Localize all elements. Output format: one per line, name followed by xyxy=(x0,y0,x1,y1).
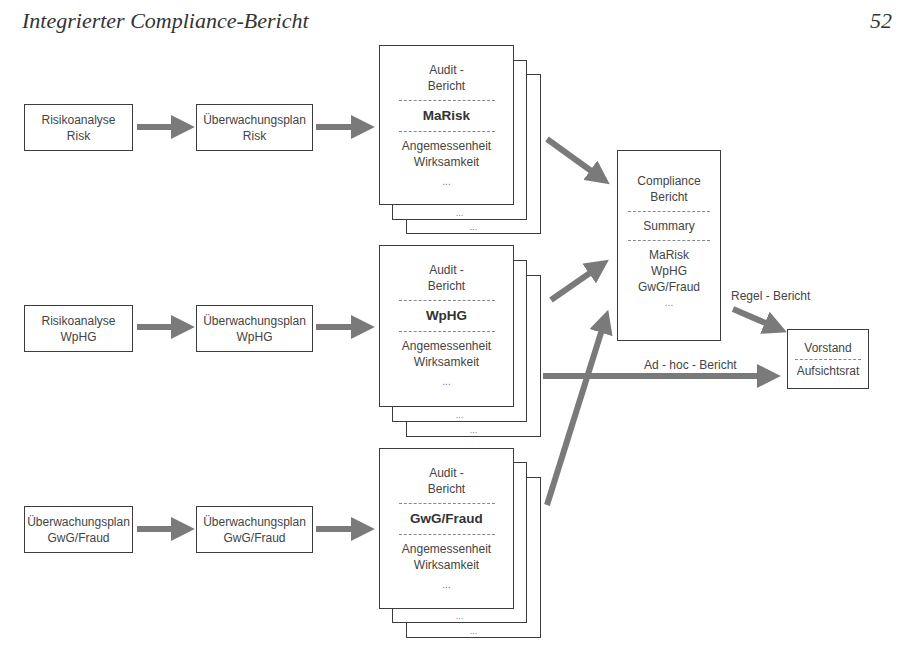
divider xyxy=(399,300,495,301)
audit-criterion: Angemessenheit xyxy=(402,138,491,154)
box-label: Risk xyxy=(67,128,90,144)
monitoring-plan-box-gwg-input: Überwachungsplan GwG/Fraud xyxy=(24,506,133,553)
board-box: Vorstand Aufsichtsrat xyxy=(787,329,869,389)
audit-ellipsis: ... xyxy=(442,577,450,593)
audit-criterion: Angemessenheit xyxy=(402,338,491,354)
box-label: GwG/Fraud xyxy=(223,530,285,546)
audit-report-wphg: Audit - Bericht WpHG Angemessenheit Wirk… xyxy=(379,245,514,407)
audit-criterion: Angemessenheit xyxy=(402,541,491,557)
divider xyxy=(399,100,495,101)
audit-topic: GwG/Fraud xyxy=(410,510,483,528)
box-label: WpHG xyxy=(237,329,273,345)
divider xyxy=(399,131,495,132)
regular-report-label: Regel - Bericht xyxy=(731,289,810,303)
audit-ellipsis: ... xyxy=(442,174,450,190)
compliance-label: Compliance xyxy=(637,173,700,189)
audit-label: Audit - xyxy=(429,62,464,78)
sheet-dots: ... xyxy=(393,410,526,420)
box-label: WpHG xyxy=(61,329,97,345)
box-label: Risk xyxy=(243,128,266,144)
risk-analysis-box-wphg: Risikoanalyse WpHG xyxy=(24,305,133,352)
arrow-audit3-to-compliance xyxy=(547,320,605,505)
compliance-label: Bericht xyxy=(650,189,687,205)
audit-label: Bericht xyxy=(428,78,465,94)
audit-report-marisk: Audit - Bericht MaRisk Angemessenheit Wi… xyxy=(379,45,514,205)
sheet-dots: ... xyxy=(393,208,526,218)
sheet-dots: ... xyxy=(407,222,540,232)
monitoring-plan-box-wphg: Überwachungsplan WpHG xyxy=(196,305,313,352)
recipient-label: Aufsichtsrat xyxy=(797,363,860,379)
sheet-dots: ... xyxy=(407,425,540,435)
audit-ellipsis: ... xyxy=(442,374,450,390)
divider xyxy=(399,503,495,504)
audit-label: Audit - xyxy=(429,465,464,481)
divider xyxy=(795,359,861,360)
box-label: Überwachungsplan xyxy=(27,514,130,530)
audit-topic: WpHG xyxy=(426,307,467,325)
box-label: Risikoanalyse xyxy=(41,313,115,329)
divider xyxy=(628,211,710,212)
divider xyxy=(399,331,495,332)
risk-analysis-box-risk: Risikoanalyse Risk xyxy=(24,104,133,151)
audit-label: Audit - xyxy=(429,262,464,278)
compliance-item: ... xyxy=(665,295,673,311)
compliance-summary: Summary xyxy=(643,218,694,234)
audit-criterion: Wirksamkeit xyxy=(414,557,479,573)
box-label: GwG/Fraud xyxy=(47,530,109,546)
audit-topic: MaRisk xyxy=(423,107,470,125)
divider xyxy=(628,240,710,241)
box-label: Überwachungsplan xyxy=(203,313,306,329)
divider xyxy=(399,534,495,535)
sheet-dots: ... xyxy=(407,626,540,636)
sheet-dots: ... xyxy=(393,611,526,621)
box-label: Risikoanalyse xyxy=(41,112,115,128)
audit-report-gwg-fraud: Audit - Bericht GwG/Fraud Angemessenheit… xyxy=(379,448,514,609)
audit-label: Bericht xyxy=(428,481,465,497)
compliance-item: WpHG xyxy=(651,263,687,279)
arrow-regular xyxy=(733,309,777,328)
compliance-report-box: Compliance Bericht Summary MaRisk WpHG G… xyxy=(617,150,721,341)
box-label: Überwachungsplan xyxy=(203,112,306,128)
arrow-audit2-to-compliance xyxy=(551,266,600,300)
adhoc-report-label: Ad - hoc - Bericht xyxy=(644,358,737,372)
audit-criterion: Wirksamkeit xyxy=(414,354,479,370)
compliance-item: GwG/Fraud xyxy=(638,279,700,295)
audit-criterion: Wirksamkeit xyxy=(414,154,479,170)
box-label: Überwachungsplan xyxy=(203,514,306,530)
recipient-label: Vorstand xyxy=(804,340,851,356)
monitoring-plan-box-risk: Überwachungsplan Risk xyxy=(196,104,313,151)
compliance-item: MaRisk xyxy=(649,247,689,263)
arrow-audit1-to-compliance xyxy=(547,139,601,178)
monitoring-plan-box-gwg: Überwachungsplan GwG/Fraud xyxy=(196,506,313,553)
audit-label: Bericht xyxy=(428,278,465,294)
